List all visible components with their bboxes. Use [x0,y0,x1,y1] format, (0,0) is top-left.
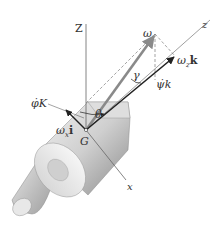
G-point [84,128,87,131]
omega-label: ω [143,28,152,39]
theta-label: θ [95,109,102,120]
gamma-label: γ [133,70,140,81]
omega-x-i-label: ωxi [56,125,73,139]
G-label: G [80,136,89,147]
x-axis-label: x [127,182,133,192]
phi-dot-K-label: φ̇K [31,98,47,109]
diagram-canvas [0,0,216,229]
psi-dot-k-label: ψ̇k [156,79,171,90]
phi-dot-K-leader [48,104,84,118]
Z-axis-label: Z [75,23,83,34]
omega-z-k-label: ωzk [177,55,197,69]
dashed-line-upper [86,34,155,103]
z-axis-label: z [202,20,207,30]
dashed-line-right [155,34,175,56]
